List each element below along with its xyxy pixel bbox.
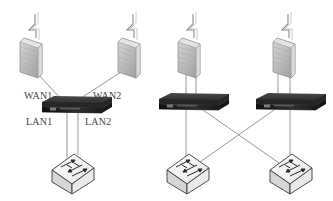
firewall-icon [20, 12, 42, 78]
right-links [186, 72, 290, 163]
link-router-r1-switch-r2 [203, 110, 279, 163]
switch-icon [52, 154, 94, 194]
label-lan2: LAN2 [85, 116, 111, 127]
label-wan2: WAN2 [93, 90, 122, 101]
firewall-icon [178, 12, 200, 78]
link-router-r2-switch-r1 [200, 110, 274, 162]
firewall-icon [118, 12, 140, 78]
left-links [37, 72, 121, 158]
left-topology: WAN1 WAN2 LAN1 LAN2 [20, 12, 140, 194]
firewall-icon [273, 12, 295, 78]
label-lan1: LAN1 [26, 116, 52, 127]
router-icon [159, 93, 229, 110]
switch-icon [270, 154, 312, 194]
network-diagram: WAN1 WAN2 LAN1 LAN2 [0, 0, 333, 201]
label-wan1: WAN1 [24, 90, 53, 101]
right-topology [159, 12, 326, 194]
router-icon [256, 93, 326, 110]
